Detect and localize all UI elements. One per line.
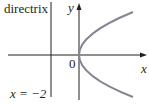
y-axis-arrow-icon xyxy=(77,3,82,10)
y-axis-label: y xyxy=(66,0,74,15)
x-axis-label: x xyxy=(140,61,147,76)
directrix-equation-label: x = −2 xyxy=(9,86,47,101)
x-axis-arrow-icon xyxy=(140,53,147,58)
origin-label: 0 xyxy=(69,56,76,71)
parabola-diagram: directrix x = −2 0 y x xyxy=(0,0,149,104)
directrix-label: directrix xyxy=(4,1,49,16)
